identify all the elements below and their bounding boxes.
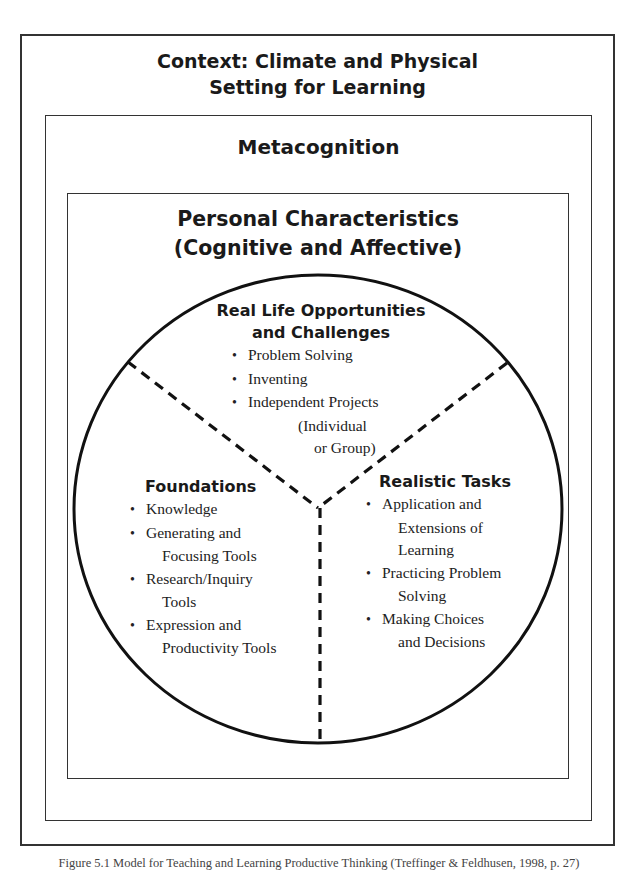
- list-item-text-continued: (Individual: [248, 415, 452, 438]
- list-item-text: Application and: [382, 495, 481, 512]
- list-item: •Problem Solving: [232, 344, 452, 368]
- list-item-text-continued: Focusing Tools: [146, 545, 310, 568]
- list-item: •Expression and Productivity Tools: [130, 614, 310, 660]
- list-item: •Making Choices and Decisions: [366, 608, 556, 654]
- section-foundations: Foundations •Knowledge •Generating and F…: [130, 476, 310, 660]
- list-item-text: Making Choices: [382, 610, 484, 627]
- bullet-icon: •: [366, 609, 382, 632]
- list-item: •Generating and Focusing Tools: [130, 522, 310, 568]
- section-title-line: and Challenges: [190, 322, 452, 344]
- section-list: •Problem Solving •Inventing •Independent…: [232, 344, 452, 460]
- list-item: •Practicing Problem Solving: [366, 562, 556, 608]
- section-title: Foundations: [130, 476, 310, 498]
- bullet-icon: •: [232, 369, 248, 392]
- section-title-line: Real Life Opportunities: [190, 300, 452, 322]
- list-item-text: Expression and: [146, 616, 241, 633]
- section-real-life-opportunities: Real Life Opportunities and Challenges •…: [190, 300, 452, 460]
- list-item-text: Independent Projects: [248, 393, 378, 410]
- list-item-text-continued: Learning: [382, 539, 556, 562]
- list-item-text: Generating and: [146, 524, 241, 541]
- list-item: •Research/Inquiry Tools: [130, 568, 310, 614]
- list-item-text-continued: Productivity Tools: [146, 637, 310, 660]
- bullet-icon: •: [130, 569, 146, 592]
- bullet-icon: •: [130, 499, 146, 522]
- list-item-text-continued: or Group): [248, 437, 452, 460]
- figure-caption: Figure 5.1 Model for Teaching and Learni…: [0, 856, 638, 870]
- bullet-icon: •: [130, 615, 146, 638]
- list-item-text: Practicing Problem: [382, 564, 501, 581]
- bullet-icon: •: [366, 494, 382, 517]
- list-item: •Application and Extensions of Learning: [366, 493, 556, 562]
- list-item-text: Inventing: [248, 370, 307, 387]
- section-title: Real Life Opportunities and Challenges: [190, 300, 452, 344]
- bullet-icon: •: [366, 563, 382, 586]
- list-item-text: Knowledge: [146, 500, 217, 517]
- list-item-text-continued: Tools: [146, 591, 310, 614]
- list-item-text: Problem Solving: [248, 346, 353, 363]
- section-list: •Knowledge •Generating and Focusing Tool…: [130, 498, 310, 660]
- list-item: •Independent Projects (Individual or Gro…: [232, 391, 452, 460]
- bullet-icon: •: [232, 345, 248, 368]
- section-list: •Application and Extensions of Learning …: [366, 493, 556, 654]
- section-title: Realistic Tasks: [366, 471, 556, 493]
- list-item: •Knowledge: [130, 498, 310, 522]
- list-item-text-continued: and Decisions: [382, 631, 556, 654]
- section-realistic-tasks: Realistic Tasks •Application and Extensi…: [366, 471, 556, 654]
- list-item: •Inventing: [232, 368, 452, 392]
- list-item-text-continued: Extensions of: [382, 517, 556, 540]
- list-item-text-continued: Solving: [382, 585, 556, 608]
- bullet-icon: •: [232, 392, 248, 415]
- list-item-text: Research/Inquiry: [146, 570, 253, 587]
- bullet-icon: •: [130, 523, 146, 546]
